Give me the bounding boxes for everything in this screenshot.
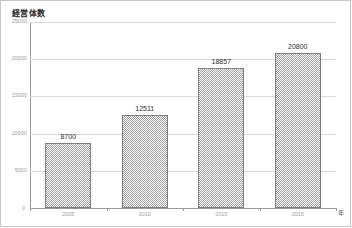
x-axis-tick-mark	[336, 208, 337, 211]
x-axis-tick-mark	[183, 208, 184, 211]
bar-value-label: 8700	[60, 133, 76, 140]
x-axis-tick-mark	[107, 208, 108, 211]
bar[interactable]	[198, 68, 244, 208]
bar[interactable]	[275, 53, 321, 208]
bar-chart: 経営体数 500010000150002000025000 8700125111…	[0, 0, 351, 227]
x-axis-tick-mark	[260, 208, 261, 211]
bar-value-label: 18857	[212, 58, 231, 65]
bar-group: 8700	[45, 22, 91, 208]
y-axis-tick-labels: 500010000150002000025000	[1, 22, 27, 209]
y-axis-tick-label: 15000	[12, 93, 27, 99]
y-axis-tick-label: 10000	[12, 131, 27, 137]
chart-title: 経営体数	[12, 7, 45, 18]
x-axis-tick-label: 2016	[292, 212, 304, 218]
bar-group: 20800	[275, 22, 321, 208]
x-axis-tick-mark	[30, 208, 31, 211]
plot-area: 8700125111885720800	[30, 22, 336, 208]
y-axis-tick-label: 25000	[12, 19, 27, 25]
bar-value-label: 12511	[135, 105, 154, 112]
x-axis-tick-label: 2005	[62, 212, 74, 218]
x-axis-tick-label: 2010	[139, 212, 151, 218]
bar-group: 18857	[198, 22, 244, 208]
y-axis-tick-label: 20000	[12, 56, 27, 62]
bar[interactable]	[122, 115, 168, 208]
x-axis-tick-label: 2015	[215, 212, 227, 218]
bar-value-label: 20800	[288, 43, 307, 50]
y-axis-tick-label: 5000	[15, 168, 27, 174]
y-axis-origin-label: 0	[22, 206, 25, 212]
x-axis-unit-label: 年	[338, 210, 344, 216]
bar-group: 12511	[122, 22, 168, 208]
bar[interactable]	[45, 143, 91, 208]
